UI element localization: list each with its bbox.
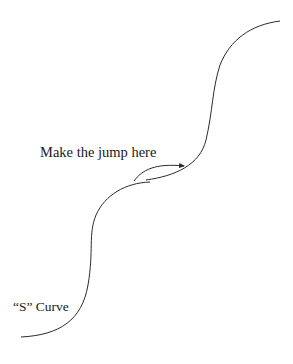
upper-s-curve bbox=[146, 21, 280, 180]
jump-arrow bbox=[134, 165, 184, 181]
s-curve-label: “S” Curve bbox=[13, 299, 69, 315]
jump-label: Make the jump here bbox=[40, 144, 156, 161]
